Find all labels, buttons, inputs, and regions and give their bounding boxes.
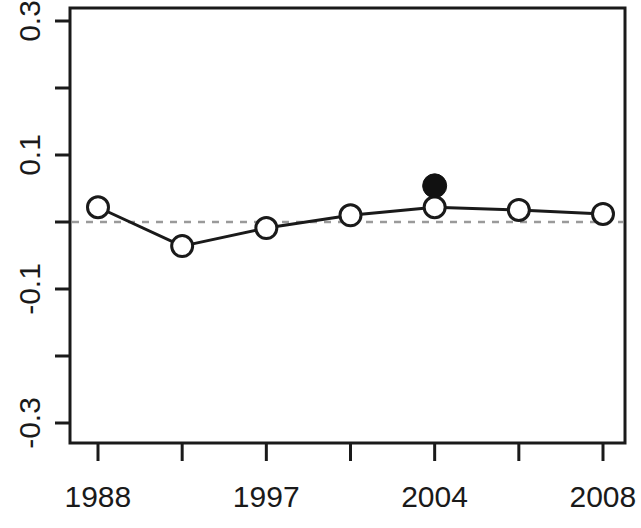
data-point-open-3 [340,205,361,226]
data-point-open-2 [256,218,277,239]
data-point-open-4 [424,197,445,218]
series-marker-filled [423,174,447,198]
data-point-open-0 [88,197,109,218]
data-point-open-6 [593,203,614,224]
y-tick-label-neg0-3: -0.3 [15,397,45,449]
y-axis-ticks [55,21,70,423]
x-tick-label-1988: 1988 [65,482,132,512]
y-tick-label-0neg1: 0.1 [15,134,45,176]
x-axis-ticks [98,443,603,461]
x-tick-label-1997: 1997 [233,482,300,512]
y-tick-label-0neg3: 0.3 [15,0,45,42]
data-point-open-5 [508,199,529,220]
chart-figure: 0.30.1-0.1-0.3 1988199720042008 [0,0,641,528]
data-point-filled-0 [423,174,447,198]
x-tick-label-2004: 2004 [401,482,468,512]
data-point-open-1 [172,236,193,257]
y-tick-label-neg0-1: -0.1 [15,263,45,315]
line-chart-canvas [0,0,641,528]
x-tick-label-2008: 2008 [570,482,637,512]
